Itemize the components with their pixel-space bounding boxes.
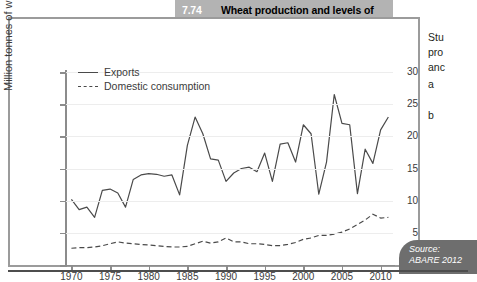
y-tick-label-20: 20 xyxy=(372,130,418,141)
figure-number: 7.74 xyxy=(182,4,202,16)
x-tick-label-1990: 1990 xyxy=(215,271,237,282)
chart-legend: Exports Domestic consumption xyxy=(78,65,210,93)
side-question-b: b xyxy=(428,108,472,123)
y-tick-25 xyxy=(60,104,66,106)
legend-line-dashed-icon xyxy=(78,86,98,87)
side-text-line-1: Stu xyxy=(428,30,472,45)
series-line-exports xyxy=(71,95,388,218)
side-text-line-3: anc xyxy=(428,60,472,75)
y-tick-10 xyxy=(60,201,66,203)
source-citation: ABARE 2012 xyxy=(409,255,477,266)
bottom-divider xyxy=(8,270,468,272)
legend-label-domestic-consumption: Domestic consumption xyxy=(104,80,210,92)
source-label: Source: xyxy=(409,244,477,255)
y-tick-label-15: 15 xyxy=(372,163,418,174)
y-tick-30 xyxy=(60,72,66,74)
gridline-y-5 xyxy=(66,233,393,234)
legend-item-domestic-consumption: Domestic consumption xyxy=(78,79,210,93)
y-axis-title: Million tonnes of wheat xyxy=(2,0,14,91)
chart-figure-frame: Million tonnes of wheat 0510152025301970… xyxy=(8,17,420,267)
x-tick-label-1995: 1995 xyxy=(254,271,276,282)
y-tick-label-5: 5 xyxy=(372,227,418,238)
x-tick-label-2000: 2000 xyxy=(292,271,314,282)
y-tick-0 xyxy=(60,265,66,267)
x-tick-label-1970: 1970 xyxy=(60,271,82,282)
gridline-y-25 xyxy=(66,104,393,105)
y-tick-label-10: 10 xyxy=(372,195,418,206)
legend-line-solid-icon xyxy=(78,72,98,73)
legend-item-exports: Exports xyxy=(78,65,210,79)
side-text-column: Stu pro anc a b xyxy=(428,30,472,123)
x-tick-label-1985: 1985 xyxy=(176,271,198,282)
x-tick-label-2005: 2005 xyxy=(331,271,353,282)
gridline-y-20 xyxy=(66,136,393,137)
y-tick-15 xyxy=(60,169,66,171)
y-tick-label-25: 25 xyxy=(372,98,418,109)
side-question-a: a xyxy=(428,77,472,92)
gridline-y-10 xyxy=(66,201,393,202)
y-tick-5 xyxy=(60,233,66,235)
x-tick-label-2010: 2010 xyxy=(370,271,392,282)
source-attribution: Source: ABARE 2012 xyxy=(399,240,477,274)
legend-label-exports: Exports xyxy=(104,66,140,78)
x-tick-label-1975: 1975 xyxy=(99,271,121,282)
plot-area xyxy=(66,72,393,265)
side-text-line-2: pro xyxy=(428,45,472,60)
series-line-domestic-consumption xyxy=(71,214,388,248)
y-tick-20 xyxy=(60,136,66,138)
y-tick-label-30: 30 xyxy=(372,66,418,77)
gridline-y-15 xyxy=(66,169,393,170)
x-tick-label-1980: 1980 xyxy=(138,271,160,282)
